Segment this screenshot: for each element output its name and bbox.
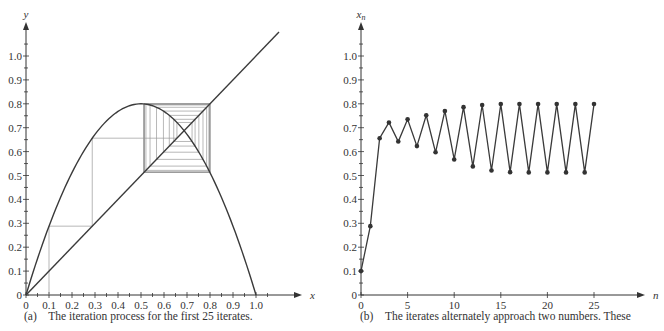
x-tick-label: 15 <box>495 299 507 310</box>
y-axis-arrow-icon <box>358 22 364 30</box>
data-point <box>536 102 541 107</box>
y-tick-label: 0.8 <box>343 98 357 110</box>
data-point <box>471 164 476 169</box>
data-point <box>508 170 513 175</box>
data-point <box>517 102 522 107</box>
data-point <box>359 269 364 274</box>
y-tick-label: 0.6 <box>343 146 357 158</box>
y-tick-label: 0.7 <box>8 122 22 134</box>
data-point <box>452 157 457 162</box>
x-tick-label: 0.5 <box>134 299 148 310</box>
x-tick-label: 10 <box>449 299 461 310</box>
logistic-curve <box>26 104 256 295</box>
x-axis-arrow-icon <box>637 292 645 298</box>
x-tick-label: 0 <box>23 299 29 310</box>
data-point <box>377 136 382 141</box>
data-point <box>526 170 531 175</box>
x-tick-label: 0.4 <box>111 299 125 310</box>
x-tick-label: 0.6 <box>157 299 171 310</box>
x-tick-label: 20 <box>542 299 554 310</box>
y-tick-label: 0.2 <box>8 241 22 253</box>
data-point <box>396 139 401 144</box>
x-tick-label: 25 <box>589 299 601 310</box>
panel-a-cobweb-plot: 00.10.20.30.40.50.60.70.80.91.000.10.20.… <box>0 0 332 331</box>
data-point <box>489 168 494 173</box>
x-axis-arrow-icon <box>294 292 302 298</box>
y-axis-arrow-icon <box>23 22 29 30</box>
data-point <box>545 170 550 175</box>
y-tick-label: 0.1 <box>343 265 357 277</box>
y-tick-label: 0.5 <box>343 170 357 182</box>
x-tick-label: 5 <box>405 299 411 310</box>
x-axis-label: n <box>653 289 659 301</box>
data-point <box>582 170 587 175</box>
panel-b-iterates-plot: 051015202500.10.20.30.40.50.60.70.80.91.… <box>332 0 664 331</box>
x-tick-label: 0.3 <box>88 299 102 310</box>
data-point <box>443 109 448 114</box>
y-tick-label: 0.9 <box>8 74 22 86</box>
iterates-line <box>361 104 594 271</box>
y-tick-label: 0.6 <box>8 146 22 158</box>
y-tick-label: 0.9 <box>343 74 357 86</box>
data-point <box>387 120 392 125</box>
x-tick-label: 0 <box>358 299 364 310</box>
y-tick-label: 1.0 <box>343 50 357 62</box>
y-tick-label: 0 <box>352 289 358 301</box>
y-tick-label: 0 <box>17 289 23 301</box>
y-tick-label: 0.5 <box>8 170 22 182</box>
y-tick-label: 1.0 <box>8 50 22 62</box>
x-tick-label: 0.2 <box>65 299 79 310</box>
y-tick-label: 0.4 <box>8 193 22 205</box>
y-tick-label: 0.2 <box>343 241 357 253</box>
data-point <box>499 102 504 107</box>
cobweb-chart: 00.10.20.30.40.50.60.70.80.91.000.10.20.… <box>0 0 332 310</box>
x-tick-label: 0.9 <box>226 299 240 310</box>
y-axis-label: xn <box>356 8 366 22</box>
data-point <box>405 117 410 122</box>
y-tick-label: 0.3 <box>343 217 357 229</box>
x-tick-label: 0.7 <box>180 299 194 310</box>
data-point <box>368 224 373 229</box>
y-tick-label: 0.3 <box>8 217 22 229</box>
data-point <box>480 103 485 108</box>
data-point <box>573 102 578 107</box>
x-tick-label: 0.8 <box>203 299 217 310</box>
y-axis-label: y <box>23 8 29 20</box>
data-point <box>554 102 559 107</box>
identity-line <box>26 32 279 295</box>
data-point <box>592 102 597 107</box>
x-axis-label: x <box>309 289 315 301</box>
iterates-chart: 051015202500.10.20.30.40.50.60.70.80.91.… <box>332 0 664 310</box>
caption-a: (a) The iteration process for the first … <box>24 310 253 322</box>
y-tick-label: 0.8 <box>8 98 22 110</box>
y-tick-label: 0.1 <box>8 265 22 277</box>
x-tick-label: 1.0 <box>249 299 263 310</box>
data-point <box>415 144 420 149</box>
x-tick-label: 0.1 <box>42 299 56 310</box>
data-point <box>564 170 569 175</box>
y-tick-label: 0.7 <box>343 122 357 134</box>
data-point <box>424 113 429 118</box>
data-point <box>461 105 466 110</box>
caption-b: (b) The iterates alternately approach tw… <box>360 310 631 322</box>
data-point <box>433 150 438 155</box>
y-tick-label: 0.4 <box>343 193 357 205</box>
